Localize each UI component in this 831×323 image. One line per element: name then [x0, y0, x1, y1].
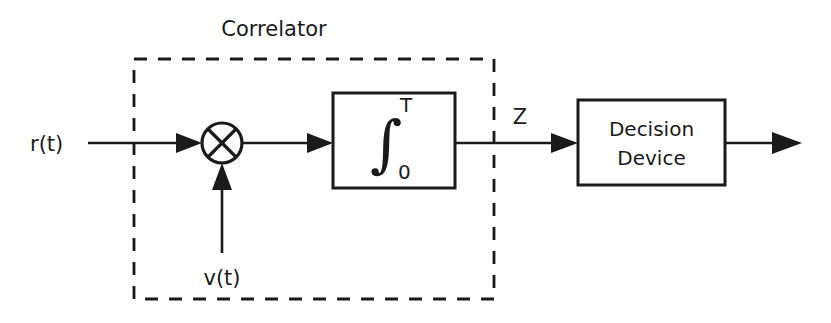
decision-input-arrowhead-icon [551, 133, 578, 153]
correlator-block-diagram: Correlator r(t) v(t) ∫ T 0 Z Decision De… [0, 0, 831, 323]
integral-upper-limit-label: T [399, 93, 413, 117]
input-signal-label: r(t) [30, 132, 63, 156]
diagram-canvas: Correlator r(t) v(t) ∫ T 0 Z Decision De… [0, 0, 831, 323]
decision-device-block [578, 100, 725, 185]
output-arrowhead-icon [772, 132, 802, 154]
integral-lower-limit-label: 0 [398, 160, 411, 184]
reference-arrowhead-icon [212, 163, 232, 190]
output-variable-label: Z [513, 105, 527, 129]
decision-device-label-line2: Device [617, 146, 685, 170]
correlator-title-label: Correlator [221, 17, 327, 41]
integrator-input-arrowhead-icon [307, 133, 333, 153]
decision-device-label-line1: Decision [609, 117, 694, 141]
input-arrowhead-icon [176, 133, 202, 153]
reference-signal-label: v(t) [203, 266, 240, 290]
